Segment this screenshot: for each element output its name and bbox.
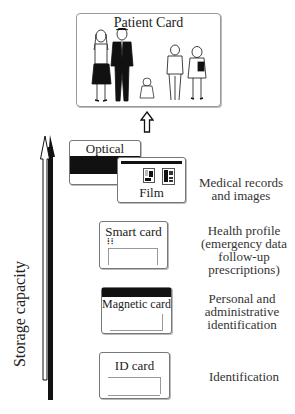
level-1-description: Medical records and images <box>196 176 286 202</box>
magnetic-stripe <box>102 288 171 297</box>
film-stripe <box>121 161 182 164</box>
id-card: ID card <box>99 352 170 399</box>
up-arrow-icon <box>140 111 154 133</box>
magnetic-card: Magnetic card <box>101 287 172 334</box>
film-image-icon <box>143 168 155 183</box>
magnetic-card-outline <box>110 314 163 331</box>
magnetic-card-label: Magnetic card <box>102 297 171 312</box>
id-card-bottom-line <box>108 395 160 396</box>
smart-card: Smart card ⁞⁞ <box>99 221 168 269</box>
smart-card-outline <box>108 248 158 265</box>
family-illustration-icon <box>85 28 213 104</box>
level-3-description: Personal and administrative identificati… <box>197 292 287 331</box>
film-card: Film <box>117 157 186 203</box>
storage-capacity-arrow-icon <box>40 135 56 400</box>
level-2-description: Health profile (emergency data follow-up… <box>199 224 289 276</box>
axis-label: Storage capacity <box>11 254 29 374</box>
patient-card: Patient Card <box>76 13 221 107</box>
optical-card-label: Optical <box>70 141 140 157</box>
id-card-label: ID card <box>100 358 169 374</box>
film-card-label: Film <box>118 185 185 201</box>
film-image-icon <box>162 168 175 185</box>
id-card-outline <box>108 377 161 394</box>
level-4-description: Identification <box>199 370 289 383</box>
chip-contacts-icon: ⁞⁞ <box>107 237 114 246</box>
